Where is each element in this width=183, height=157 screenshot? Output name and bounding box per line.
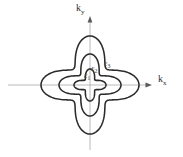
y-axis-arrow-icon <box>88 16 93 23</box>
y-axis-label: ky <box>76 2 85 16</box>
x-axis-label: kx <box>158 73 167 87</box>
contour-label-epsilon-2: ε2 <box>91 63 98 74</box>
contour-label-epsilon-3: ε3 <box>104 58 111 69</box>
k-space-diagram: kx ky ε1 ε2 ε3 <box>0 0 183 157</box>
x-axis-arrow-icon <box>146 83 153 88</box>
